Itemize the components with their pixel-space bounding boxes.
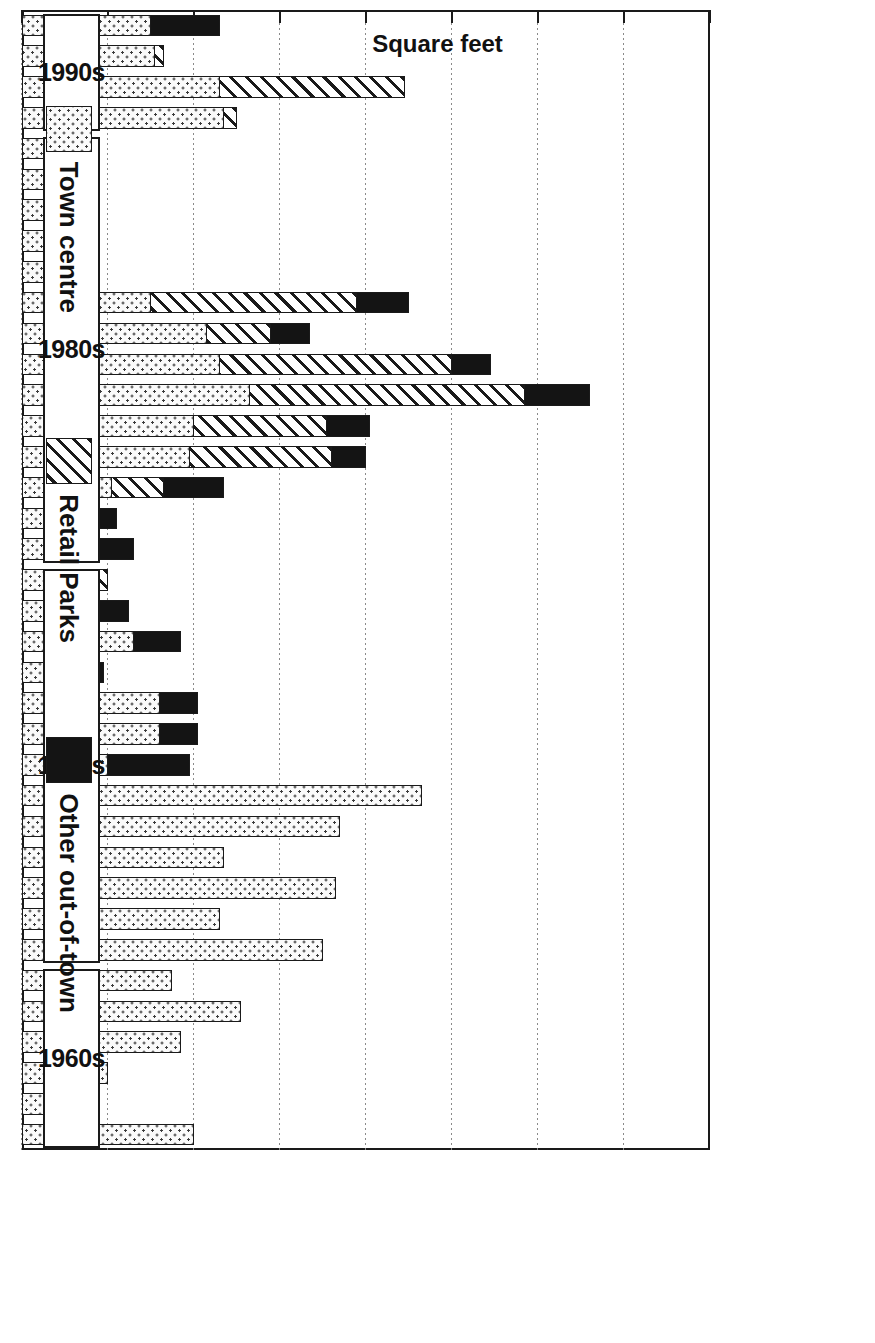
decade-label: 1980s [38, 335, 105, 364]
rotated-figure-body: 0246810121416 Square feet 1960s1970s1980… [0, 0, 875, 1343]
legend-swatch-town [46, 106, 92, 152]
legend-swatch-other [46, 738, 92, 784]
legend-label: Other out-of-town [54, 794, 85, 1014]
legend-item: Town centre [46, 106, 92, 313]
legend-item: Other out-of-town [46, 738, 92, 1014]
legend-label: Town centre [54, 162, 85, 313]
figure-page: 0246810121416 Square feet 1960s1970s1980… [0, 0, 875, 1343]
legend-item: Retail Parks [46, 438, 92, 643]
decade-label: 1960s [38, 1044, 105, 1073]
decade-label: 1990s [38, 58, 105, 87]
legend-label: Retail Parks [54, 494, 85, 643]
legend-swatch-retail [46, 438, 92, 484]
decade-bracket-group: 1960s1970s1980s1990s [0, 0, 875, 1343]
figure-caption: Fig. 19.2 Shopping scheme completions [867, 1333, 875, 1343]
caption-wrapper: Fig. 19.2 Shopping scheme completions [795, 0, 875, 1343]
